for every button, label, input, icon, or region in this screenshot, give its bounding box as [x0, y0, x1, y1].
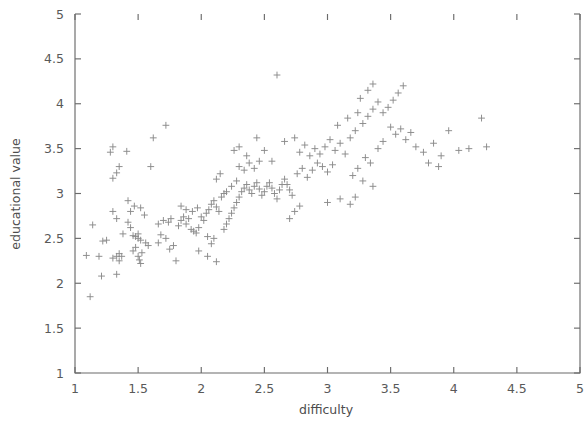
data-point-marker: [204, 253, 211, 260]
y-tick-label: 2.5: [44, 231, 64, 246]
data-point-marker: [113, 215, 120, 222]
data-point-marker: [425, 160, 432, 167]
data-point-marker: [150, 134, 157, 141]
data-point-marker: [309, 167, 316, 174]
data-point-marker: [347, 134, 354, 141]
y-tick-label: 1.5: [44, 321, 64, 336]
data-point-marker: [83, 252, 90, 259]
data-point-marker: [160, 217, 167, 224]
data-point-marker: [96, 253, 103, 260]
data-point-marker: [402, 136, 409, 143]
data-point-marker: [231, 147, 238, 154]
data-point-marker: [194, 204, 201, 211]
data-point-marker: [183, 206, 190, 213]
data-point-marker: [99, 238, 106, 245]
data-point-marker: [120, 230, 127, 237]
data-point-marker: [412, 143, 419, 150]
y-axis-ticks: 11.522.533.544.55: [44, 7, 580, 381]
data-point-marker: [89, 222, 96, 229]
data-point-marker: [233, 178, 240, 185]
data-point-marker: [385, 104, 392, 111]
data-point-marker: [314, 160, 321, 167]
data-point-marker: [478, 115, 485, 122]
data-point-marker: [163, 235, 170, 242]
data-point-marker: [332, 147, 339, 154]
data-point-marker: [362, 154, 369, 161]
data-point-marker: [291, 208, 298, 215]
data-point-marker: [324, 199, 331, 206]
x-tick-label: 4.5: [507, 381, 527, 396]
data-point-marker: [375, 145, 382, 152]
data-point-marker: [347, 201, 354, 208]
data-point-marker: [87, 293, 94, 300]
data-point-marker: [370, 81, 377, 88]
data-point-marker: [213, 258, 220, 265]
data-point-marker: [466, 145, 473, 152]
data-point-marker: [228, 183, 235, 190]
x-tick-label: 4: [450, 381, 458, 396]
data-point-marker: [322, 143, 329, 150]
y-tick-label: 1: [56, 366, 64, 381]
data-point-marker: [274, 72, 281, 79]
data-point-marker: [241, 167, 248, 174]
data-point-marker: [370, 106, 377, 113]
data-point-marker: [395, 90, 402, 97]
data-point-marker: [352, 127, 359, 134]
data-point-marker: [157, 231, 164, 238]
data-point-marker: [137, 204, 144, 211]
data-point-marker: [269, 158, 276, 165]
data-point-marker: [317, 151, 324, 158]
data-point-marker: [407, 129, 414, 136]
data-point-marker: [319, 163, 326, 170]
x-axis-title: difficulty: [299, 402, 354, 417]
plot-frame: [75, 14, 580, 373]
data-point-marker: [337, 195, 344, 202]
data-point-marker: [116, 163, 123, 170]
y-tick-label: 2: [56, 276, 64, 291]
data-point-marker: [236, 163, 243, 170]
data-point-marker: [173, 257, 180, 264]
data-point-marker: [189, 208, 196, 215]
data-point-marker: [380, 138, 387, 145]
data-point-marker: [392, 131, 399, 138]
x-tick-label: 1.5: [128, 381, 148, 396]
data-point-marker: [296, 149, 303, 156]
data-point-marker: [127, 208, 134, 215]
data-point-marker: [141, 212, 148, 219]
data-point-marker: [435, 163, 442, 170]
data-point-marker: [367, 160, 374, 167]
data-point-marker: [430, 140, 437, 147]
data-point-marker: [123, 148, 130, 155]
data-point-marker: [236, 143, 243, 150]
data-point-marker: [135, 253, 142, 260]
data-point-marker: [204, 233, 211, 240]
data-point-marker: [304, 174, 311, 181]
data-point-marker: [294, 170, 301, 177]
data-point-marker: [390, 97, 397, 104]
data-point-marker: [113, 169, 120, 176]
data-point-marker: [147, 163, 154, 170]
data-point-marker: [438, 152, 445, 159]
data-point-marker: [365, 113, 372, 120]
data-point-marker: [109, 208, 116, 215]
data-point-marker: [103, 237, 110, 244]
data-point-marker: [397, 125, 404, 132]
x-tick-label: 2.5: [254, 381, 274, 396]
data-point-marker: [163, 122, 170, 129]
data-point-marker: [113, 271, 120, 278]
data-point-marker: [296, 203, 303, 210]
data-point-marker: [334, 122, 341, 129]
y-tick-label: 4.5: [44, 51, 64, 66]
data-point-marker: [301, 142, 308, 149]
x-tick-label: 2: [197, 381, 205, 396]
data-point-marker: [344, 115, 351, 122]
data-point-marker: [256, 158, 263, 165]
data-point-marker: [98, 273, 105, 280]
data-point-marker: [354, 109, 361, 116]
data-point-marker: [400, 82, 407, 89]
data-point-marker: [155, 239, 162, 246]
data-point-marker: [365, 87, 372, 94]
data-point-marker: [253, 134, 260, 141]
data-point-marker: [375, 99, 382, 106]
data-point-marker: [483, 143, 490, 150]
